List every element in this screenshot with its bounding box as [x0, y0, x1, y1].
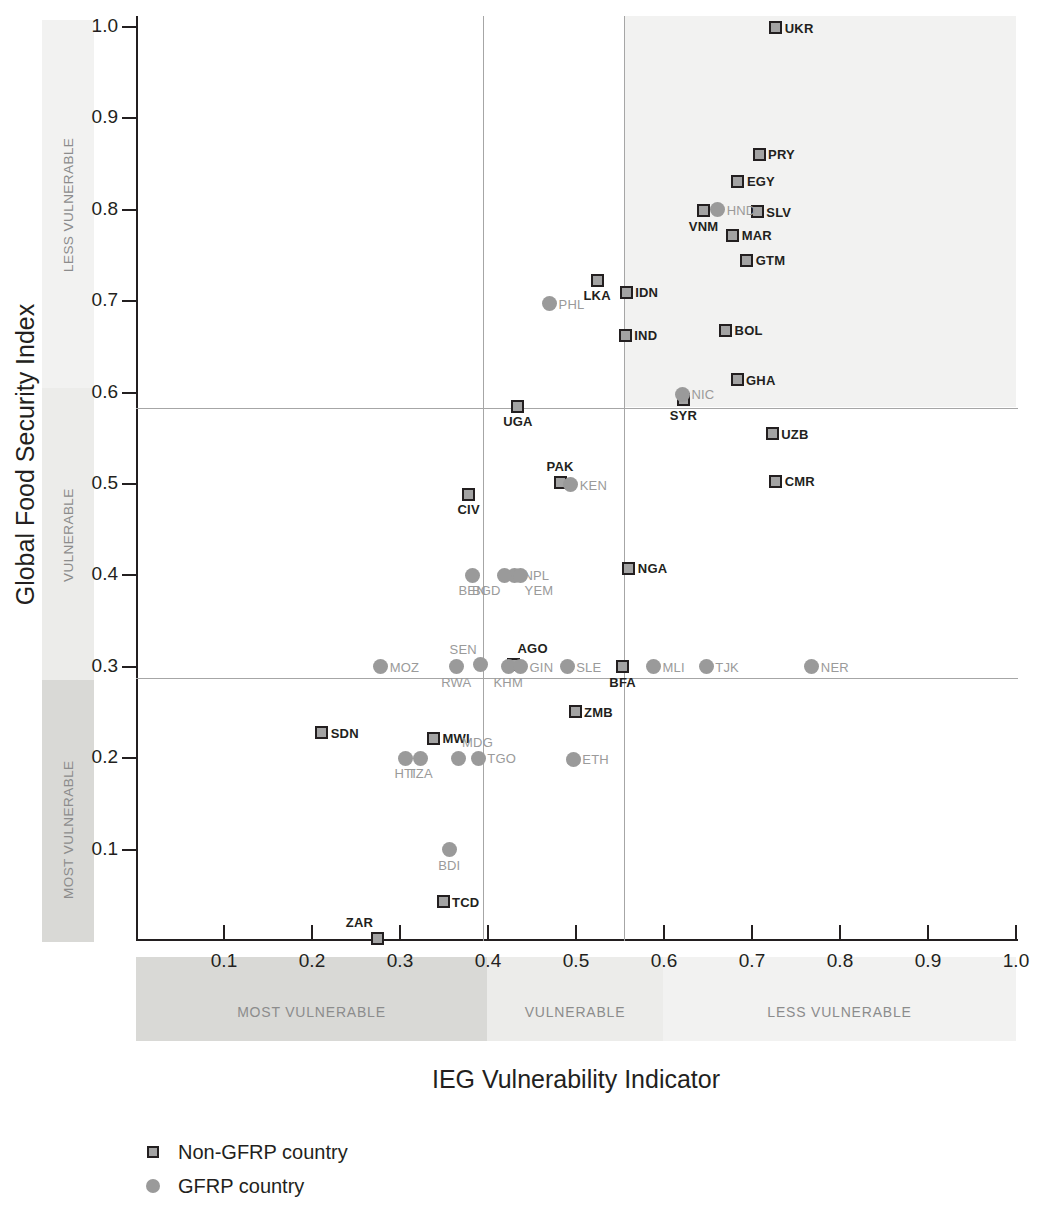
- circle-marker-icon: [675, 387, 690, 402]
- data-point-label: NGA: [638, 562, 668, 575]
- circle-marker-icon: [699, 659, 714, 674]
- data-point-label: EGY: [747, 175, 775, 188]
- data-point-label: BOL: [735, 324, 763, 337]
- circle-marker-icon: [560, 659, 575, 674]
- legend-item-non-gfrp[interactable]: Non-GFRP country: [140, 1135, 348, 1169]
- circle-marker-icon: [646, 659, 661, 674]
- square-marker-icon: [569, 705, 582, 718]
- data-point-label: MLI: [662, 661, 684, 674]
- y-tick: [122, 849, 136, 851]
- square-marker-icon: [462, 488, 475, 501]
- circle-marker-icon: [513, 659, 528, 674]
- square-marker-icon: [619, 329, 632, 342]
- y-tick-label: 0.8: [72, 198, 118, 220]
- y-tick: [122, 757, 136, 759]
- x-tick-label: 0.3: [370, 950, 430, 972]
- circle-marker-icon: [710, 202, 725, 217]
- y-tick-label: 0.5: [72, 472, 118, 494]
- data-point-label: AGO: [518, 642, 548, 655]
- x-tick-label: 0.5: [546, 950, 606, 972]
- y-tick: [122, 117, 136, 119]
- data-point-label: UKR: [785, 22, 814, 35]
- y-band-label-vulnerable: VULNERABLE: [42, 430, 94, 640]
- legend-label-non-gfrp: Non-GFRP country: [178, 1141, 348, 1164]
- square-marker-icon: [511, 400, 524, 413]
- data-point-label: VNM: [689, 220, 719, 233]
- circle-marker-icon: [563, 477, 578, 492]
- x-tick-label: 0.1: [194, 950, 254, 972]
- circle-marker-icon: [373, 659, 388, 674]
- data-point-label: TCD: [452, 896, 479, 909]
- square-marker-icon: [620, 286, 633, 299]
- square-marker-icon: [726, 229, 739, 242]
- y-tick-label: 0.2: [72, 746, 118, 768]
- data-point-label: UGA: [503, 415, 533, 428]
- data-point-label: NER: [821, 661, 849, 674]
- data-point-label: ZAR: [346, 916, 373, 929]
- circle-marker-icon: [513, 568, 528, 583]
- data-point-label: SYR: [670, 409, 697, 422]
- y-tick-label: 1.0: [72, 15, 118, 37]
- y-tick-label: 0.1: [72, 838, 118, 860]
- data-point-label: SDN: [331, 727, 359, 740]
- legend-item-gfrp[interactable]: GFRP country: [140, 1169, 348, 1203]
- y-tick-label: 0.7: [72, 289, 118, 311]
- y-tick: [122, 209, 136, 211]
- data-point-label: NIC: [691, 388, 714, 401]
- square-marker-icon: [437, 895, 450, 908]
- data-point-label: LKA: [583, 289, 610, 302]
- data-point-label: BDI: [438, 859, 460, 872]
- data-point-label: PRY: [768, 148, 795, 161]
- square-marker-icon: [591, 274, 604, 287]
- circle-marker-icon: [413, 751, 428, 766]
- circle-marker-icon: [566, 752, 581, 767]
- data-point-label: MOZ: [390, 661, 419, 674]
- data-point-label: TJK: [715, 661, 739, 674]
- circle-marker-icon: [442, 842, 457, 857]
- y-tick: [122, 392, 136, 394]
- square-marker-icon: [427, 732, 440, 745]
- data-point-label: GHA: [746, 374, 776, 387]
- square-marker-icon: [769, 475, 782, 488]
- circle-marker-icon: [473, 657, 488, 672]
- circle-marker-icon: [398, 751, 413, 766]
- square-marker-icon: [731, 373, 744, 386]
- square-marker-icon: [731, 175, 744, 188]
- square-marker-icon: [622, 562, 635, 575]
- data-point-label: MDG: [462, 736, 493, 749]
- data-point-label: SEN: [450, 643, 477, 656]
- y-tick-label: 0.3: [72, 655, 118, 677]
- y-tick-label: 0.4: [72, 563, 118, 585]
- data-point-label: BFA: [609, 676, 636, 689]
- legend-label-gfrp: GFRP country: [178, 1175, 304, 1198]
- data-point-label: ETH: [582, 753, 609, 766]
- data-point-label: PAK: [547, 460, 574, 473]
- y-tick: [122, 483, 136, 485]
- data-point-label: TGO: [487, 752, 516, 765]
- x-band-label-most-vulnerable: MOST VULNERABLE: [136, 1002, 487, 1022]
- circle-marker-icon: [465, 568, 480, 583]
- square-marker-icon: [766, 427, 779, 440]
- legend: Non-GFRP country GFRP country: [140, 1135, 348, 1203]
- circle-marker-icon: [471, 751, 486, 766]
- x-tick-label: 0.9: [898, 950, 958, 972]
- data-point-label: ZMB: [584, 706, 613, 719]
- circle-marker-icon: [449, 659, 464, 674]
- data-point-label: GIN: [530, 661, 554, 674]
- data-point-label: IDN: [635, 286, 658, 299]
- square-marker-icon: [140, 1146, 166, 1158]
- data-point-label: MAR: [742, 229, 772, 242]
- square-marker-icon: [315, 726, 328, 739]
- y-tick: [122, 26, 136, 28]
- x-tick-label: 0.6: [634, 950, 694, 972]
- square-marker-icon: [616, 660, 629, 673]
- data-point-label: SLV: [766, 206, 791, 219]
- square-marker-icon: [719, 324, 732, 337]
- data-point-label: HND: [727, 204, 756, 217]
- x-band-label-vulnerable: VULNERABLE: [487, 1002, 663, 1022]
- data-point-label: TZA: [408, 767, 433, 780]
- data-point-label: GTM: [756, 254, 785, 267]
- data-point-label: IND: [634, 329, 657, 342]
- y-tick: [122, 574, 136, 576]
- circle-marker-icon: [804, 659, 819, 674]
